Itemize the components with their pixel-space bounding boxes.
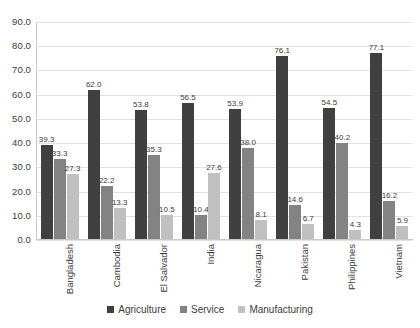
- bar[interactable]: 13.3: [114, 208, 126, 240]
- bar-slot: 5.9: [396, 22, 408, 240]
- chart-legend: AgricultureServiceManufacturing: [0, 304, 420, 315]
- legend-label: Service: [191, 304, 224, 315]
- legend-item[interactable]: Manufacturing: [238, 304, 312, 315]
- legend-label: Agriculture: [118, 304, 166, 315]
- bar[interactable]: 39.3: [41, 145, 53, 240]
- bar-value-label: 33.3: [52, 149, 68, 158]
- bar-group: 53.938.08.1: [225, 22, 272, 240]
- x-label-cell: Bangladesh: [36, 244, 83, 300]
- x-axis-tick-label: India: [205, 244, 215, 265]
- bar-value-label: 10.4: [193, 205, 209, 214]
- bar-slot: 53.9: [229, 22, 241, 240]
- bar[interactable]: 38.0: [242, 148, 254, 240]
- bar-group: 62.022.213.3: [83, 22, 130, 240]
- bar-slot: 8.1: [255, 22, 267, 240]
- bar[interactable]: 33.3: [54, 159, 66, 240]
- bar-group: 56.510.427.6: [177, 22, 224, 240]
- bar-value-label: 27.6: [206, 163, 222, 172]
- y-tick-label: 10.0: [12, 211, 31, 221]
- bar-value-label: 53.9: [227, 99, 243, 108]
- bar-slot: 6.7: [302, 22, 314, 240]
- x-axis-tick-label: Cambodia: [111, 244, 121, 287]
- bar-group: 54.540.24.3: [319, 22, 366, 240]
- bar[interactable]: 53.8: [135, 110, 147, 240]
- bar[interactable]: 27.6: [208, 173, 220, 240]
- bar-slot: 39.3: [41, 22, 53, 240]
- bar[interactable]: 10.4: [195, 215, 207, 240]
- bar[interactable]: 14.6: [289, 205, 301, 240]
- y-tick-label: 0.0: [17, 235, 31, 245]
- bar[interactable]: 62.0: [88, 90, 100, 240]
- bar[interactable]: 5.9: [396, 226, 408, 240]
- bar-slot: 10.4: [195, 22, 207, 240]
- bar-slot: 22.2: [101, 22, 113, 240]
- x-label-cell: Pakistan: [272, 244, 319, 300]
- gridline: [36, 240, 413, 241]
- legend-label: Manufacturing: [249, 304, 312, 315]
- bar-value-label: 76.1: [274, 46, 290, 55]
- bar[interactable]: 35.3: [148, 155, 160, 241]
- bar[interactable]: 10.5: [161, 215, 173, 240]
- x-axis-tick-label: Bangladesh: [64, 244, 74, 294]
- x-axis-tick-label: Vietnam: [394, 244, 404, 279]
- y-tick-label: 80.0: [12, 41, 31, 51]
- bar-value-label: 77.1: [369, 43, 385, 52]
- y-tick-label: 90.0: [12, 17, 31, 27]
- legend-swatch-icon: [107, 306, 114, 313]
- bar[interactable]: 27.3: [67, 174, 79, 240]
- x-axis-tick-label: El Salvador: [158, 244, 168, 293]
- y-axis: 90.080.070.060.050.040.030.020.010.00.0: [0, 0, 34, 328]
- bar-slot: 77.1: [370, 22, 382, 240]
- bar-slot: 53.8: [135, 22, 147, 240]
- bar-slot: 38.0: [242, 22, 254, 240]
- x-label-cell: El Salvador: [130, 244, 177, 300]
- legend-item[interactable]: Agriculture: [107, 304, 166, 315]
- bar-value-label: 4.3: [350, 220, 361, 229]
- bar-value-label: 14.6: [287, 195, 303, 204]
- bar[interactable]: 16.2: [383, 201, 395, 240]
- plot-area: 39.333.327.362.022.213.353.835.310.556.5…: [36, 22, 413, 240]
- bar-slot: 76.1: [276, 22, 288, 240]
- bar-slot: 27.3: [67, 22, 79, 240]
- bar[interactable]: 54.5: [323, 108, 335, 240]
- y-tick-label: 30.0: [12, 162, 31, 172]
- bar-slot: 62.0: [88, 22, 100, 240]
- bar-slot: 4.3: [349, 22, 361, 240]
- bar-slot: 10.5: [161, 22, 173, 240]
- bar-group: 39.333.327.3: [36, 22, 83, 240]
- x-label-cell: India: [177, 244, 224, 300]
- bar-slot: 40.2: [336, 22, 348, 240]
- bar-value-label: 6.7: [303, 214, 314, 223]
- bar-value-label: 16.2: [382, 191, 398, 200]
- bar-groups: 39.333.327.362.022.213.353.835.310.556.5…: [36, 22, 413, 240]
- bar[interactable]: 53.9: [229, 109, 241, 240]
- bar[interactable]: 6.7: [302, 224, 314, 240]
- legend-swatch-icon: [180, 306, 187, 313]
- y-tick-label: 40.0: [12, 138, 31, 148]
- bar-group: 53.835.310.5: [130, 22, 177, 240]
- x-label-cell: Cambodia: [83, 244, 130, 300]
- bar-value-label: 27.3: [65, 164, 81, 173]
- y-tick-label: 20.0: [12, 187, 31, 197]
- bar-value-label: 56.5: [180, 93, 196, 102]
- bar-value-label: 40.2: [335, 133, 351, 142]
- x-axis-tick-label: Pakistan: [300, 244, 310, 280]
- bar[interactable]: 76.1: [276, 56, 288, 240]
- x-label-cell: Vietnam: [366, 244, 413, 300]
- grouped-bar-chart: 90.080.070.060.050.040.030.020.010.00.0 …: [0, 0, 420, 328]
- bar[interactable]: 40.2: [336, 143, 348, 240]
- bar-value-label: 39.3: [39, 135, 55, 144]
- legend-item[interactable]: Service: [180, 304, 224, 315]
- x-axis-line: [36, 239, 413, 240]
- bar-slot: 27.6: [208, 22, 220, 240]
- x-label-cell: Nicaragua: [225, 244, 272, 300]
- bar-value-label: 38.0: [240, 138, 256, 147]
- bar[interactable]: 8.1: [255, 220, 267, 240]
- bar-value-label: 35.3: [146, 145, 162, 154]
- bar[interactable]: 22.2: [101, 186, 113, 240]
- bar[interactable]: 77.1: [370, 53, 382, 240]
- bar-slot: 16.2: [383, 22, 395, 240]
- bar[interactable]: 56.5: [182, 103, 194, 240]
- bar-group: 76.114.66.7: [272, 22, 319, 240]
- bar-value-label: 10.5: [159, 205, 175, 214]
